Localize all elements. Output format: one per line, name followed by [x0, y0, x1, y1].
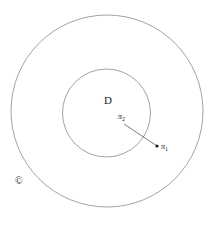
arrow-head-point-marker [155, 144, 158, 147]
point-pi2-label: π2 [118, 113, 125, 122]
point-pi2-subscript: 2 [122, 116, 125, 122]
inner-region-label: D [104, 95, 112, 106]
outer-region-label: © [15, 176, 23, 186]
point-pi1-label: π1 [161, 143, 168, 152]
point-pi1-subscript: 1 [165, 146, 168, 152]
figure-vector-graphic [0, 0, 218, 230]
displacement-arrow-line [124, 124, 157, 146]
outer-circle-boundary [11, 15, 203, 207]
figure-canvas: D π2 π1 © [0, 0, 218, 230]
inner-circle-boundary [63, 69, 151, 157]
